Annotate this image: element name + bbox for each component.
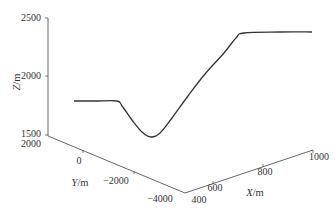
z-tick-label-2500: 2500: [21, 12, 41, 23]
x-tick-label-1000: 1000: [309, 151, 329, 162]
y-tick-label-minus4000: −4000: [147, 193, 173, 204]
y-tick-label-minus2000: −2000: [103, 175, 129, 186]
x-axis: 400 600 800 1000 X/m: [185, 150, 329, 205]
x-axis-label: X/m: [245, 187, 264, 198]
z-axis-label: Z/m: [11, 74, 22, 91]
y-tick-label-0: 0: [77, 155, 82, 166]
x-tick-label-800: 800: [258, 166, 273, 177]
trajectory-line: [74, 32, 312, 137]
3d-line-chart: 2500 2000 1500 Z/m 2000 0 −2000 −4000 Y/…: [0, 0, 335, 215]
z-tick-label-2000: 2000: [21, 70, 41, 81]
y-axis-label: Y/m: [72, 177, 89, 188]
y-tick-label-2000: 2000: [21, 138, 41, 149]
x-tick-label-400: 400: [192, 194, 207, 205]
z-axis: 2500 2000 1500 Z/m: [11, 12, 48, 139]
x-tick-label-600: 600: [208, 182, 223, 193]
y-axis: 2000 0 −2000 −4000 Y/m: [21, 136, 185, 204]
